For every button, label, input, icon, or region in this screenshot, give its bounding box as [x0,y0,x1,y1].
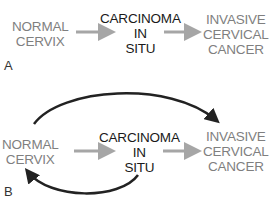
panel-label-a: A [4,58,13,73]
node-normal-cervix-a: NORMAL CERVIX [12,19,69,49]
diagram-canvas: NORMAL CERVIX CARCINOMA IN SITU INVASIVE… [0,0,278,207]
panel-label-b: B [4,184,13,199]
node-invasive-cancer-b: INVASIVE CERVICAL CANCER [203,129,269,174]
node-carcinoma-in-situ-b: CARCINOMA IN SITU [99,130,180,175]
node-normal-cervix-b: NORMAL CERVIX [2,137,59,167]
node-carcinoma-in-situ-a: CARCINOMA IN SITU [100,11,181,56]
arrow-cis-to-normal-curved [28,172,138,193]
node-invasive-cancer-a: INVASIVE CERVICAL CANCER [203,12,269,57]
arrow-normal-to-invasive-curved [34,93,216,124]
